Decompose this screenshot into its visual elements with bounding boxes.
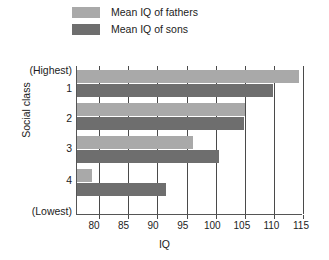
x-tick-label: 115 — [293, 220, 309, 231]
x-tick-label: 90 — [148, 220, 159, 231]
x-tick-label: 95 — [177, 220, 188, 231]
legend-label-sons: Mean IQ of sons — [111, 24, 188, 35]
bar-fathers-class-1 — [77, 70, 299, 83]
chart-legend: Mean IQ of fathers Mean IQ of sons — [72, 6, 198, 36]
x-tick-label: 100 — [204, 220, 221, 231]
x-axis-tick — [157, 215, 158, 219]
y-tick-label: 2 — [66, 112, 72, 124]
x-axis-title: IQ — [0, 238, 329, 250]
legend-swatch-sons — [72, 24, 100, 35]
y-tick-label: 4 — [66, 174, 72, 186]
bar-fathers-class-2 — [77, 103, 245, 116]
x-axis-tick — [128, 215, 129, 219]
y-axis-title: Social class — [20, 65, 32, 155]
plot-area — [76, 66, 302, 215]
x-tick-label: 80 — [88, 220, 99, 231]
y-tick-label: (Lowest) — [32, 205, 72, 217]
x-axis-tick — [303, 215, 304, 219]
x-axis-tick — [99, 215, 100, 219]
plot-inner — [77, 66, 302, 214]
x-axis-tick — [216, 215, 217, 219]
bar-chart: Mean IQ of fathers Mean IQ of sons Socia… — [0, 0, 329, 260]
legend-item-sons: Mean IQ of sons — [72, 23, 198, 36]
bar-sons-class-1 — [77, 84, 273, 97]
bar-sons-class-4 — [77, 183, 166, 196]
y-tick-label: 1 — [66, 82, 72, 94]
x-tick-label: 110 — [263, 220, 279, 231]
y-tick-label: 3 — [66, 142, 72, 154]
bar-sons-class-2 — [77, 117, 244, 130]
legend-item-fathers: Mean IQ of fathers — [72, 6, 198, 19]
bar-sons-class-3 — [77, 150, 219, 163]
x-tick-label: 105 — [234, 220, 251, 231]
y-tick-label: (Highest) — [29, 64, 72, 76]
x-axis-tick — [274, 215, 275, 219]
x-axis-tick — [187, 215, 188, 219]
gridline — [274, 66, 275, 214]
bar-fathers-class-3 — [77, 136, 193, 149]
x-axis-tick — [245, 215, 246, 219]
legend-label-fathers: Mean IQ of fathers — [111, 7, 198, 18]
bar-fathers-class-4 — [77, 169, 92, 182]
legend-swatch-fathers — [72, 7, 100, 18]
gridline — [303, 66, 304, 214]
y-axis: Social class (Highest) 1 2 3 4 (Lowest) — [0, 0, 72, 260]
x-tick-label: 85 — [118, 220, 129, 231]
